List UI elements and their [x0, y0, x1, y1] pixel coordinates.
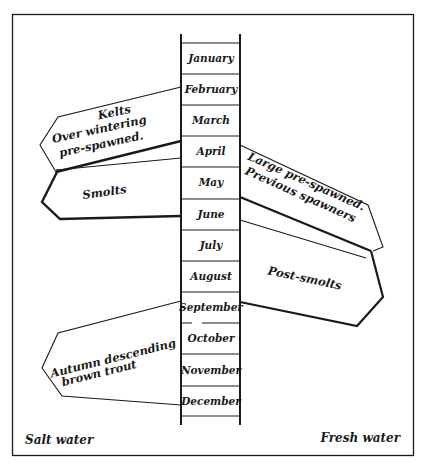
migration-diagram: January February March April May June Ju…	[0, 0, 424, 464]
fresh-water-label: Fresh water	[319, 431, 401, 445]
smolts-label: Smolts	[82, 182, 128, 202]
month-label-january: January	[186, 52, 234, 64]
month-label-february: February	[184, 83, 238, 95]
month-label-december: December	[180, 395, 242, 407]
month-label-april: April	[196, 145, 226, 157]
salt-water-label: Salt water	[25, 433, 95, 447]
month-label-september: September	[179, 301, 244, 313]
month-label-november: November	[180, 364, 243, 376]
month-label-october: October	[188, 332, 236, 344]
month-label-june: June	[196, 208, 225, 220]
month-label-august: August	[189, 270, 232, 282]
month-label-march: March	[191, 114, 230, 126]
post-smolts-label: Post-smolts	[266, 263, 344, 293]
month-label-july: July	[198, 239, 224, 251]
month-label-may: May	[198, 176, 224, 188]
